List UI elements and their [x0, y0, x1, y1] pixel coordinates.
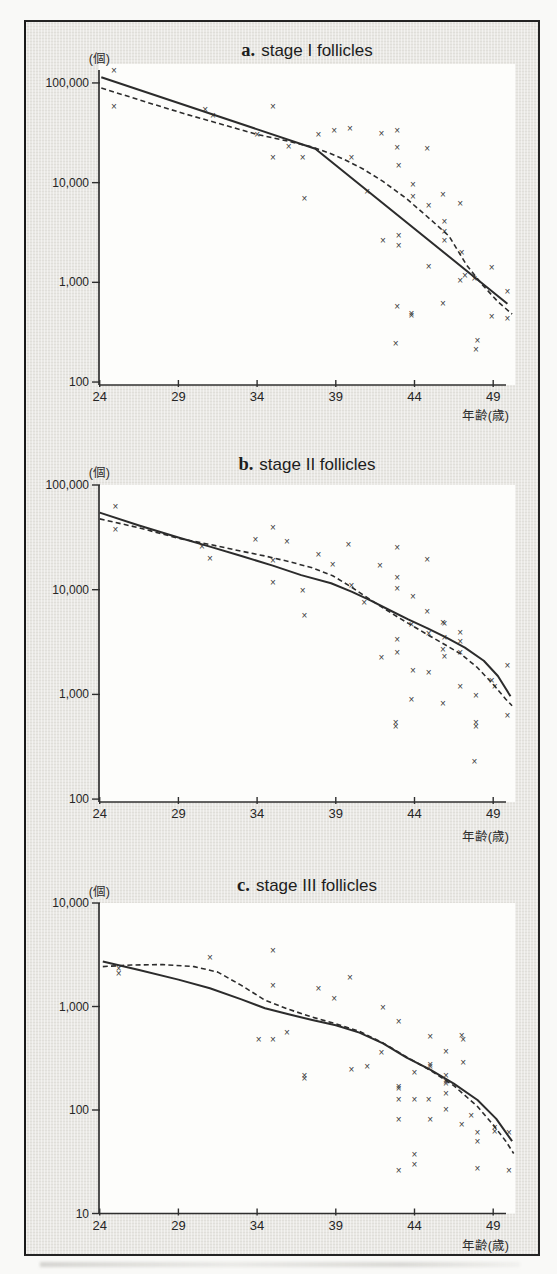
- scatter-marker: ×: [270, 152, 276, 163]
- scatter-marker: ×: [379, 1047, 385, 1058]
- scatter-marker: ×: [504, 313, 510, 324]
- scatter-marker: ×: [396, 1114, 402, 1125]
- panel-c-title: c.stage III follicles: [99, 875, 515, 896]
- scatter-marker: ×: [116, 968, 122, 979]
- scatter-marker: ×: [443, 1104, 449, 1115]
- scatter-marker: ×: [441, 235, 447, 246]
- panel-b-title-text: stage II follicles: [259, 455, 375, 474]
- x-tick-label: 24: [92, 389, 106, 404]
- scatter-marker: ×: [457, 198, 463, 209]
- scatter-marker: ×: [424, 606, 430, 617]
- panel-stage2: 100,00010,0001,000100242934394449×××××××…: [26, 442, 538, 862]
- scatter-marker: ×: [410, 591, 416, 602]
- scatter-marker: ×: [379, 128, 385, 139]
- scatter-marker: ×: [441, 651, 447, 662]
- scatter-marker: ×: [207, 553, 213, 564]
- scatter-marker: ×: [457, 681, 463, 692]
- panel-a-title-text: stage I follicles: [261, 41, 373, 60]
- x-tick-label: 29: [171, 389, 185, 404]
- scatter-marker: ×: [270, 1034, 276, 1045]
- scatter-marker: ×: [113, 524, 119, 535]
- scatter-marker: ×: [270, 101, 276, 112]
- x-tick-label: 34: [250, 389, 264, 404]
- scatter-marker: ×: [394, 647, 400, 658]
- scatter-marker: ×: [256, 1034, 262, 1045]
- x-tick-label: 24: [92, 1218, 106, 1233]
- scatter-marker: ×: [113, 501, 119, 512]
- scatter-marker: ×: [408, 694, 414, 705]
- scatter-marker: ×: [475, 335, 481, 346]
- x-tick-label: 49: [486, 1218, 500, 1233]
- x-axis-unit-label: 年齢(歳): [389, 1235, 509, 1254]
- scatter-marker: ×: [331, 125, 337, 136]
- scatter-marker: ×: [301, 193, 307, 204]
- scatter-marker: ×: [347, 972, 353, 983]
- scatter-marker: ×: [471, 756, 477, 767]
- scatter-marker: ×: [331, 993, 337, 1004]
- panel-c-title-prefix: c.: [237, 875, 250, 895]
- scatter-marker: ×: [408, 310, 414, 321]
- scatter-marker: ×: [284, 536, 290, 547]
- y-tick-label: 100: [69, 792, 89, 806]
- x-axis-unit-label: 年齢(歳): [389, 826, 509, 845]
- scatter-marker: ×: [207, 952, 213, 963]
- panel-a-title-prefix: a.: [241, 40, 255, 60]
- y-axis-unit-label: (個): [46, 881, 110, 900]
- scatter-marker: ×: [270, 577, 276, 588]
- scatter-marker: ×: [380, 1002, 386, 1013]
- y-tick-label: 100,000: [46, 76, 90, 90]
- scatter-marker: ×: [504, 710, 510, 721]
- scatter-marker: ×: [427, 1031, 433, 1042]
- scatter-marker: ×: [394, 583, 400, 594]
- scatter-marker: ×: [270, 980, 276, 991]
- scatter-marker: ×: [473, 690, 479, 701]
- stage3-chart: 10,0001,00010010242934394449××××××××××××…: [26, 862, 538, 1254]
- scatter-marker: ×: [316, 983, 322, 994]
- scatter-marker: ×: [377, 560, 383, 571]
- scatter-marker: ×: [489, 262, 495, 273]
- y-axis-ticks: 10,0001,00010010: [52, 896, 100, 1221]
- scatter-marker: ×: [440, 298, 446, 309]
- y-axis-ticks: 100,00010,0001,000100: [46, 76, 100, 389]
- plot-area: [99, 64, 515, 385]
- y-tick-label: 1,000: [59, 1000, 89, 1014]
- x-tick-label: 44: [407, 1218, 421, 1233]
- x-tick-label: 39: [329, 1218, 343, 1233]
- panel-stage3: 10,0001,00010010242934394449××××××××××××…: [26, 862, 538, 1254]
- scatter-marker: ×: [475, 1136, 481, 1147]
- scatter-marker: ×: [364, 1061, 370, 1072]
- stage2-chart: 100,00010,0001,000100242934394449×××××××…: [26, 442, 538, 862]
- x-axis-unit-label: 年齢(歳): [389, 405, 509, 424]
- scatter-marker: ×: [424, 143, 430, 154]
- scatter-marker: ×: [253, 534, 259, 545]
- x-tick-label: 34: [250, 806, 264, 821]
- scatter-marker: ×: [412, 1159, 418, 1170]
- scatter-marker: ×: [475, 1163, 481, 1174]
- scatter-marker: ×: [379, 652, 385, 663]
- y-tick-label: 100: [69, 375, 89, 389]
- y-tick-label: 100: [69, 1103, 89, 1117]
- stage1-chart: 100,00010,0001,000100242934394449×××××××…: [26, 22, 538, 442]
- y-tick-label: 10: [76, 1207, 90, 1221]
- scatter-marker: ×: [396, 1165, 402, 1176]
- scatter-marker: ×: [301, 610, 307, 621]
- scatter-marker: ×: [459, 1119, 465, 1130]
- scatter-marker: ×: [284, 1027, 290, 1038]
- y-axis-unit-label: (個): [46, 48, 110, 67]
- x-tick-label: 24: [92, 806, 106, 821]
- scatter-marker: ×: [460, 1034, 466, 1045]
- scatter-marker: ×: [440, 189, 446, 200]
- y-tick-label: 1,000: [59, 687, 89, 701]
- scatter-marker: ×: [300, 152, 306, 163]
- x-tick-label: 49: [486, 389, 500, 404]
- scatter-marker: ×: [270, 945, 276, 956]
- y-axis-unit-label: (個): [46, 462, 110, 481]
- x-tick-label: 39: [329, 389, 343, 404]
- scatter-marker: ×: [393, 338, 399, 349]
- scatter-marker: ×: [412, 1067, 418, 1078]
- scatter-marker: ×: [504, 286, 510, 297]
- scatter-marker: ×: [489, 311, 495, 322]
- x-tick-label: 39: [329, 806, 343, 821]
- scatter-marker: ×: [300, 585, 306, 596]
- scatter-marker: ×: [426, 200, 432, 211]
